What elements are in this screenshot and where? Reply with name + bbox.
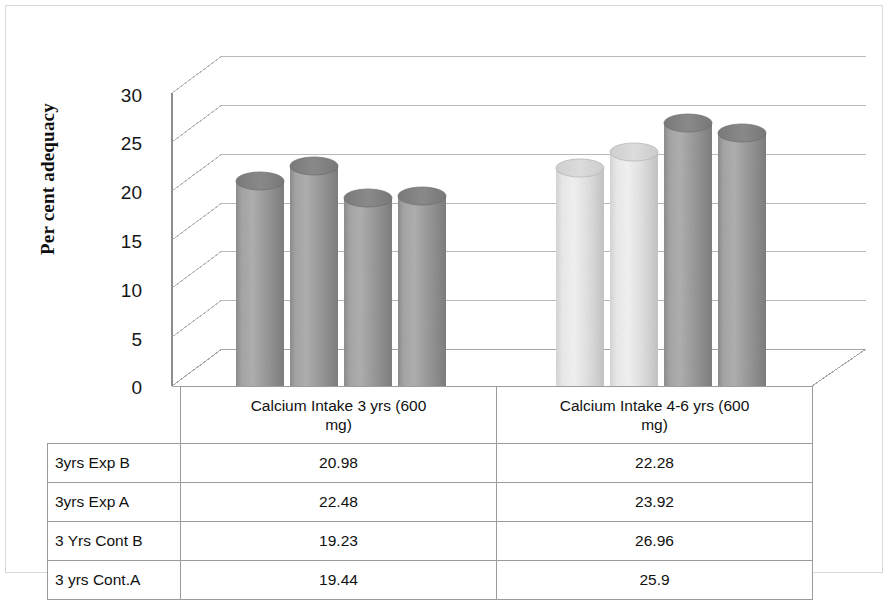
chart-plot: [0, 0, 892, 400]
value-3yrs-cont-b-g1: 19.23: [181, 522, 497, 561]
header-line-1: Calcium Intake 3 yrs (600: [251, 397, 427, 414]
bar-g2-3yrs-cont-b: [664, 114, 712, 395]
value-3yrs-exp-b-g1: 20.98: [181, 444, 497, 483]
chart-data-table: Calcium Intake 3 yrs (600 mg) Calcium In…: [47, 386, 813, 600]
series-label-3yrs-cont-a: 3 yrs Cont.A: [48, 561, 181, 600]
value-3yrs-cont-a-g1: 19.44: [181, 561, 497, 600]
header-line-1: Calcium Intake 4-6 yrs (600: [560, 397, 750, 414]
header-line-2: mg): [641, 416, 668, 433]
series-label-3yrs-exp-a: 3yrs Exp A: [48, 483, 181, 522]
value-3yrs-cont-a-g2: 25.9: [497, 561, 813, 600]
bar-g1-3yrs-exp-b: [236, 172, 284, 395]
table-header-group-1: Calcium Intake 3 yrs (600 mg): [181, 387, 497, 444]
bar-g2-3yrs-exp-a: [610, 143, 658, 395]
table-row: 3yrs Exp A 22.48 23.92: [48, 483, 813, 522]
series-label-3yrs-exp-b: 3yrs Exp B: [48, 444, 181, 483]
header-line-2: mg): [325, 416, 352, 433]
value-3yrs-exp-a-g2: 23.92: [497, 483, 813, 522]
bar-g1-3yrs-exp-a: [290, 157, 338, 395]
table-row: 3 yrs Cont.A 19.44 25.9: [48, 561, 813, 600]
bar-g2-3yrs-exp-b: [556, 159, 604, 395]
value-3yrs-exp-a-g1: 22.48: [181, 483, 497, 522]
bar-g1-3yrs-cont-a: [398, 187, 446, 395]
value-3yrs-cont-b-g2: 26.96: [497, 522, 813, 561]
table-row: 3 Yrs Cont B 19.23 26.96: [48, 522, 813, 561]
table-header-row: Calcium Intake 3 yrs (600 mg) Calcium In…: [48, 387, 813, 444]
chart-figure: Per cent adequacy 30 25 20 15 10 5 0: [0, 0, 892, 400]
bar-g2-3yrs-cont-a: [718, 124, 766, 395]
value-3yrs-exp-b-g2: 22.28: [497, 444, 813, 483]
table-row: 3yrs Exp B 20.98 22.28: [48, 444, 813, 483]
bar-g1-3yrs-cont-b: [344, 189, 392, 395]
table-header-group-2: Calcium Intake 4-6 yrs (600 mg): [497, 387, 813, 444]
series-label-3yrs-cont-b: 3 Yrs Cont B: [48, 522, 181, 561]
table-corner-cell: [48, 387, 181, 444]
